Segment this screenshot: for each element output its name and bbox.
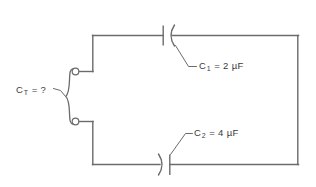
leader-line-total-capacitance — [54, 89, 66, 97]
capacitor-2-subscript: 2 — [201, 132, 206, 139]
total-capacitance-label: CT = ? — [16, 85, 46, 95]
capacitor-1-subscript: 1 — [206, 65, 211, 72]
total-capacitance-subscript: T — [23, 89, 29, 96]
total-capacitance-equals: = — [29, 84, 41, 95]
circuit-schematic-svg — [0, 0, 316, 187]
capacitor-1-value: 2 µF — [223, 60, 243, 71]
capacitor-2-label: C2 = 4 µF — [194, 128, 239, 138]
capacitor-2-value: 4 µF — [218, 127, 238, 138]
capacitor-circuit-diagram: CT = ? C1 = 2 µF C2 = 4 µF — [0, 0, 316, 187]
capacitor-1-equals: = — [211, 60, 223, 71]
total-capacitance-value: ? — [40, 84, 46, 95]
leader-line-capacitor-2 — [171, 134, 193, 155]
capacitor-1-label: C1 = 2 µF — [199, 61, 244, 71]
capacitor-2-equals: = — [206, 127, 218, 138]
terminal-brace-icon — [66, 69, 74, 125]
leader-line-capacitor-1 — [176, 46, 197, 67]
